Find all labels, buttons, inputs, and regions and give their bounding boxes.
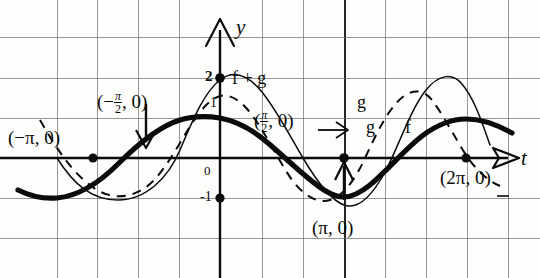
- arrow-right-to-pi-over-2: [318, 122, 348, 138]
- fraction-pi-over-2: π2: [260, 109, 268, 134]
- paren-tail: , 0): [268, 110, 293, 131]
- fraction-denominator: 2: [114, 103, 122, 115]
- y-tick-label-0: 0: [204, 164, 211, 177]
- paren-tail: , 0): [122, 91, 147, 112]
- point-label-2pi: (2π, 0): [440, 168, 491, 187]
- t-axis-label: t: [521, 148, 527, 169]
- paren-lead: (−: [97, 91, 114, 112]
- y-axis-label: y: [236, 17, 245, 38]
- point-dot-0-neg1: [215, 193, 224, 202]
- g-curve-label-left: g: [357, 93, 366, 111]
- y-tick-label-neg-1: -1: [200, 190, 212, 204]
- point-label-pi: (π, 0): [312, 218, 353, 237]
- point-label-neg-pi-over-2: (−π2, 0): [97, 91, 147, 116]
- y-tick-label-2: 2: [205, 69, 213, 84]
- plot-area: [0, 0, 540, 278]
- y-tick-label-1: 1: [210, 96, 217, 110]
- point-label-neg-pi: (−π, 0): [8, 128, 60, 147]
- g-curve-label-right: g: [366, 118, 375, 136]
- fraction-pi-over-2: π2: [114, 90, 122, 115]
- fraction-denominator: 2: [260, 122, 268, 134]
- y-axis: [206, 19, 234, 278]
- point-label-pi-over-2: (π2, 0): [254, 110, 294, 135]
- t-axis: [0, 148, 519, 168]
- f-curve-label: f: [405, 118, 411, 136]
- fraction-numerator: π: [260, 109, 268, 121]
- fraction-numerator: π: [114, 90, 122, 102]
- point-dot-neg-pi: [88, 153, 97, 162]
- point-dot-0-2: [215, 73, 225, 83]
- sum-curve-label: f + g: [232, 69, 266, 87]
- point-dot-2pi: [461, 153, 470, 162]
- figure-canvas: y t 2 1 0 -1 f + g g f g (−π, 0) (−π2, 0…: [0, 0, 540, 278]
